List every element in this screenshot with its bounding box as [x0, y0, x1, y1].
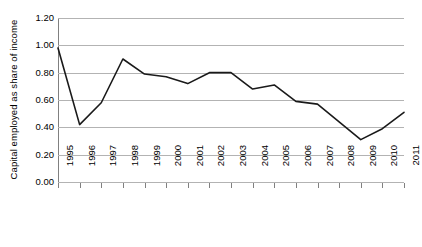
x-axis-tick: [253, 183, 254, 188]
x-axis-tick: [318, 183, 319, 188]
x-axis-tick-label: 2006: [302, 145, 314, 191]
x-axis-tick: [101, 183, 102, 188]
series-polyline: [58, 48, 404, 140]
y-axis-tick-label: 0.20: [20, 150, 54, 160]
x-axis-tick: [339, 183, 340, 188]
x-axis-tick-label: 2008: [345, 145, 357, 191]
x-axis-tick-label: 2005: [280, 145, 292, 191]
y-axis-tick-label: 1.00: [20, 40, 54, 50]
x-axis-tick: [145, 183, 146, 188]
x-axis-tick-label: 2000: [172, 145, 184, 191]
x-axis-tick-label: 2003: [237, 145, 249, 191]
x-axis-tick-label: 2009: [367, 145, 379, 191]
x-axis-tick-label: 2002: [215, 145, 227, 191]
line-chart: Capital employed as share of income 0.00…: [0, 0, 422, 247]
x-axis-tick: [188, 183, 189, 188]
x-axis-tick: [361, 183, 362, 188]
x-axis-tick-label: 2001: [194, 145, 206, 191]
x-axis-tick: [209, 183, 210, 188]
x-axis-tick-label: 2010: [388, 145, 400, 191]
x-axis-tick: [123, 183, 124, 188]
x-axis-tick-label: 1996: [86, 145, 98, 191]
x-axis-tick: [296, 183, 297, 188]
x-axis-tick-label: 1995: [64, 145, 76, 191]
x-axis-tick-label: 1999: [151, 145, 163, 191]
x-axis-tick-label: 1998: [129, 145, 141, 191]
x-axis-tick-label: 2007: [324, 145, 336, 191]
y-axis-tick-label: 0.60: [20, 95, 54, 105]
x-axis-tick: [231, 183, 232, 188]
x-axis-tick: [58, 183, 59, 188]
y-axis-tick-label: 0.80: [20, 68, 54, 78]
y-axis-tick-label: 0.40: [20, 122, 54, 132]
x-axis-tick: [166, 183, 167, 188]
x-axis-tick-label: 2011: [410, 145, 422, 191]
x-axis-tick-label: 2004: [259, 145, 271, 191]
y-axis-tick-labels: 0.000.200.400.600.801.001.20: [20, 0, 54, 247]
x-axis-tick-label: 1997: [107, 145, 119, 191]
x-axis-tick: [80, 183, 81, 188]
y-axis-tick-label: 0.00: [20, 177, 54, 187]
x-axis-tick: [404, 183, 405, 188]
x-axis-tick: [382, 183, 383, 188]
x-axis-tick: [274, 183, 275, 188]
y-axis-tick-label: 1.20: [20, 13, 54, 23]
